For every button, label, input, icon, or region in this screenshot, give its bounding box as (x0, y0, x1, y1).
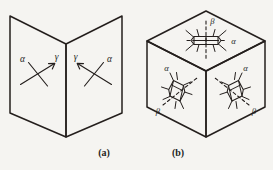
left-face-sub-3 (162, 87, 169, 89)
left-cross-marker (21, 63, 55, 87)
panel-b-caption: (b) (172, 147, 184, 159)
left-face-sub-5 (163, 97, 170, 100)
cube-left-face (147, 41, 206, 137)
right-face-label-beta: β (251, 106, 257, 116)
right-face-motif (215, 73, 251, 109)
left-cross-label-gamma: γ (55, 52, 59, 62)
left-face-label-beta: β (155, 106, 161, 116)
right-cross-label-gamma: γ (74, 52, 78, 62)
left-cross-alpha-axis (29, 63, 48, 87)
panel-a-caption: (a) (98, 147, 110, 159)
right-face-sub-6 (229, 102, 232, 109)
right-face-ring (227, 81, 243, 102)
right-face-label-alpha: α (243, 63, 248, 73)
right-face-sub-3 (244, 87, 251, 89)
right-face-sub-8 (236, 102, 237, 109)
right-face-sub-7 (235, 73, 236, 80)
left-face-sub-6 (180, 102, 183, 109)
left-face-sub-8 (175, 102, 176, 109)
top-face-sub-8 (213, 45, 215, 52)
left-plane-outline (10, 16, 66, 137)
right-cross-marker (77, 63, 111, 87)
left-cross-label-alpha: α (20, 54, 26, 64)
left-face-ring-bond-1 (172, 85, 182, 90)
left-face-sub-7 (177, 73, 178, 80)
figure-svg: α γ γ α (a) (0, 0, 273, 170)
top-face-sub-5 (197, 30, 199, 37)
left-face-motif (162, 73, 198, 109)
right-face-sub-1 (239, 73, 242, 80)
top-face-sub-4 (219, 45, 226, 51)
left-face-ring (169, 81, 185, 102)
top-face-sub-2 (219, 31, 226, 37)
left-face-label-alpha: α (164, 63, 169, 73)
top-face-sub-7 (197, 45, 199, 52)
figure-container: α γ γ α (a) (0, 0, 273, 170)
panel-a-group: α γ γ α (a) (10, 16, 122, 159)
left-face-sub-4 (185, 92, 192, 94)
top-face-motif (186, 21, 226, 60)
right-plane-outline (66, 16, 122, 137)
left-face-sub-1 (170, 73, 173, 80)
top-face-label-alpha: α (231, 36, 236, 46)
right-face-ring-bond-1 (230, 85, 240, 90)
right-cross-label-alpha: α (107, 54, 113, 64)
top-face-ring (191, 37, 221, 45)
right-face-sub-5 (242, 97, 249, 100)
right-face-substituents (220, 73, 251, 109)
right-face-sub-4 (220, 92, 227, 94)
left-face-substituents (162, 73, 193, 109)
panel-b-group: β α (147, 11, 265, 159)
top-face-label-beta: β (209, 16, 215, 26)
cube-right-face (206, 41, 265, 137)
top-face-sub-6 (213, 30, 215, 37)
top-face-sub-1 (186, 31, 193, 37)
right-cross-alpha-axis (85, 63, 104, 87)
top-face-sub-3 (186, 45, 193, 51)
